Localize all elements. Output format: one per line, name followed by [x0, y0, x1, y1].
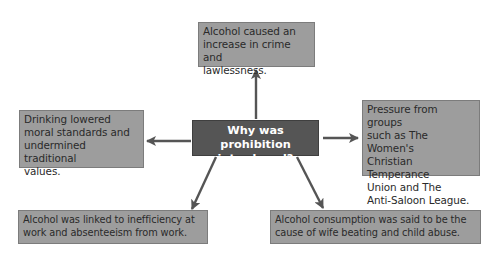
cause-box-bottom-left: Alcohol was linked to inefficiency at wo…	[18, 210, 208, 244]
cause-line: work and absenteeism from work.	[23, 226, 203, 239]
cause-line: Union and The	[367, 181, 475, 194]
cause-line: lawlessness.	[203, 64, 310, 77]
cause-line: undermined traditional	[24, 139, 139, 165]
cause-line: cause of wife beating and child abuse.	[275, 226, 476, 239]
cause-box-bottom-right: Alcohol consumption was said to be the c…	[270, 210, 481, 244]
cause-line: Alcohol caused an	[203, 25, 310, 38]
cause-line: values.	[24, 165, 139, 178]
cause-line: Alcohol consumption was said to be the	[275, 213, 476, 226]
cause-box-left: Drinking lowered moral standards and und…	[19, 110, 144, 168]
cause-line: Christian Temperance	[367, 155, 475, 181]
central-question-line: introduced?	[197, 152, 314, 166]
cause-line: Pressure from groups	[367, 103, 475, 129]
cause-line: Alcohol was linked to inefficiency at	[23, 213, 203, 226]
cause-line: Anti-Saloon League.	[367, 194, 475, 207]
central-question-line: Why was prohibition	[197, 124, 314, 152]
cause-box-top: Alcohol caused an increase in crime and …	[198, 22, 315, 67]
central-question-box: Why was prohibition introduced?	[192, 120, 319, 156]
cause-box-right: Pressure from groups such as The Women's…	[362, 100, 480, 176]
cause-line: Drinking lowered	[24, 113, 139, 126]
cause-line: increase in crime and	[203, 38, 310, 64]
cause-line: such as The Women's	[367, 129, 475, 155]
cause-line: moral standards and	[24, 126, 139, 139]
